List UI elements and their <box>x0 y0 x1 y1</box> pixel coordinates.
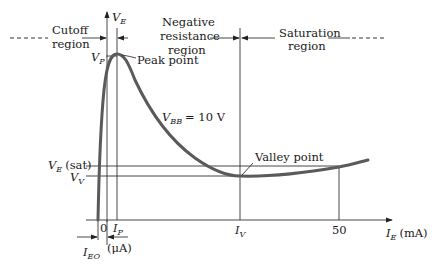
iv-label: IV <box>234 223 247 239</box>
ip-label: IP <box>112 221 124 237</box>
cutoff-label-line1: Cutoff <box>52 23 89 37</box>
x-axis-label: IE(mA) <box>385 226 428 242</box>
x-tick-50: 50 <box>332 223 347 237</box>
vbb-label: VBB= 10 V <box>162 110 226 126</box>
vv-label: VV <box>70 170 85 186</box>
valley-point-label: Valley point <box>254 150 324 164</box>
saturation-label-line2: region <box>288 39 326 53</box>
valley-point-leader <box>242 163 253 175</box>
negative-label-line2: resistance <box>160 29 220 43</box>
micro-amp-label: (μA) <box>107 241 132 255</box>
peak-point-label: Peak point <box>137 53 199 67</box>
ieo-label: IEO <box>82 245 100 261</box>
vp-label: VP <box>91 50 105 66</box>
saturation-label-line1: Saturation <box>279 26 341 40</box>
cutoff-label-line2: region <box>52 37 90 51</box>
negative-label-line1: Negative <box>162 15 215 29</box>
y-axis-label: VE <box>112 10 126 26</box>
x-tick-0: 0 <box>100 221 107 235</box>
characteristic-curve <box>98 54 368 220</box>
ujt-characteristic-diagram: Cutoff region Negative resistance region… <box>0 0 433 272</box>
